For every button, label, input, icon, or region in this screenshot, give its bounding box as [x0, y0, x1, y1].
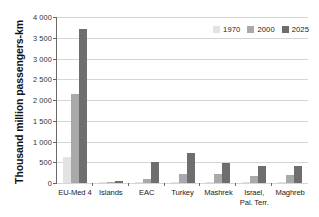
x-axis-tick-label: Maghreb — [272, 188, 308, 207]
y-axis-tick-mark — [53, 121, 56, 122]
x-axis-tick-mark — [199, 183, 200, 186]
x-axis-tick-label: Mashrek — [200, 188, 236, 207]
x-axis-tick-mark — [235, 183, 236, 186]
x-axis-tick-label: Israel, Pal. Terr. — [236, 188, 272, 207]
y-axis-tick-label: 1 000 — [33, 137, 52, 146]
legend-swatch-icon — [282, 26, 289, 33]
y-axis-tick-mark — [53, 38, 56, 39]
plot-area: 4 0003 5003 0002 5002 0001 5001 0005000 — [56, 17, 308, 184]
y-axis-tick-mark — [53, 79, 56, 80]
bar — [143, 179, 151, 183]
bar — [258, 166, 266, 183]
y-axis-tick-mark — [53, 162, 56, 163]
x-axis-labels: EU-Med 4IslandsEACTurkeyMashrekIsrael, P… — [57, 188, 308, 207]
x-axis-tick-mark — [271, 183, 272, 186]
legend-swatch-icon — [213, 26, 220, 33]
chart-legend: 197020002025 — [213, 25, 309, 34]
bar-group — [93, 17, 129, 183]
bar — [115, 181, 123, 183]
legend-item[interactable]: 1970 — [213, 25, 240, 34]
bar — [294, 166, 302, 183]
bar-chart: Thousand million passengers-km 4 0003 50… — [0, 0, 319, 217]
bar — [242, 182, 250, 183]
bar — [171, 182, 179, 183]
y-axis-tick-label: 4 000 — [33, 13, 52, 22]
y-axis-tick-mark — [53, 100, 56, 101]
bar — [187, 153, 195, 183]
bar — [79, 29, 87, 183]
bar-group — [129, 17, 165, 183]
y-axis-tick-label: 3 000 — [33, 54, 52, 63]
bar — [71, 94, 79, 183]
legend-item[interactable]: 2025 — [282, 25, 309, 34]
x-axis-tick-label: Islands — [93, 188, 129, 207]
bar — [278, 182, 286, 183]
bar — [107, 182, 115, 183]
y-axis-tick-label: 2 500 — [33, 75, 52, 84]
bar-group — [236, 17, 272, 183]
bar — [214, 174, 222, 183]
x-axis-tick-mark — [128, 183, 129, 186]
y-axis-tick-label: 2 000 — [33, 96, 52, 105]
bar — [222, 163, 230, 183]
x-axis-tick-label: EAC — [129, 188, 165, 207]
x-axis-tick-mark — [164, 183, 165, 186]
bar-groups — [57, 17, 308, 183]
y-axis-tick-label: 500 — [39, 158, 52, 167]
y-axis-tick-mark — [53, 183, 56, 184]
bar — [206, 182, 214, 183]
legend-label: 2000 — [257, 25, 274, 34]
bar — [151, 162, 159, 183]
y-axis-tick-label: 0 — [48, 179, 52, 188]
bar — [99, 182, 107, 183]
bar — [250, 176, 258, 183]
legend-label: 2025 — [292, 25, 309, 34]
y-axis-tick-mark — [53, 142, 56, 143]
legend-label: 1970 — [223, 25, 240, 34]
x-axis-tick-mark — [92, 183, 93, 186]
y-axis-title: Thousand million passengers-km — [13, 17, 25, 187]
y-axis-tick-mark — [53, 59, 56, 60]
bar — [63, 157, 71, 183]
bar — [179, 174, 187, 183]
bar — [286, 175, 294, 183]
bar-group — [57, 17, 93, 183]
bar-group — [200, 17, 236, 183]
legend-swatch-icon — [247, 26, 254, 33]
y-axis-tick-mark — [53, 17, 56, 18]
legend-item[interactable]: 2000 — [247, 25, 274, 34]
x-axis-tick-label: Turkey — [165, 188, 201, 207]
bar-group — [165, 17, 201, 183]
bar-group — [272, 17, 308, 183]
y-axis-tick-label: 3 500 — [33, 33, 52, 42]
bar — [135, 182, 143, 183]
x-axis-tick-label: EU-Med 4 — [57, 188, 93, 207]
y-axis-tick-label: 1 500 — [33, 116, 52, 125]
